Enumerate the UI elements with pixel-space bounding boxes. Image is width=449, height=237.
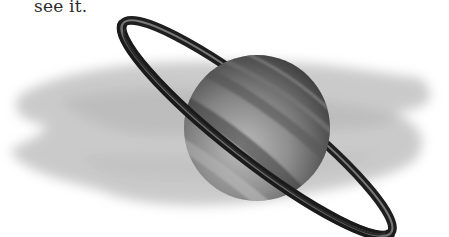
saturn-illustration bbox=[0, 0, 449, 237]
